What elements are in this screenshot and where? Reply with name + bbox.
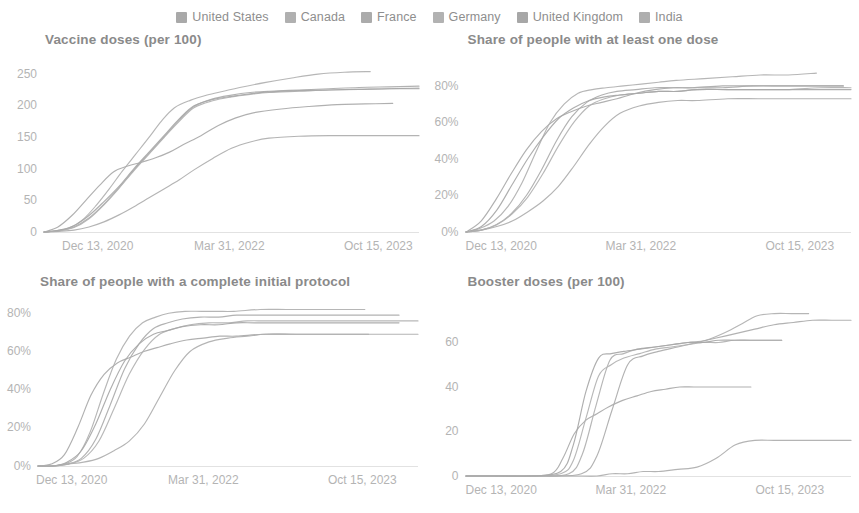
x-axis-line — [38, 466, 418, 467]
legend-item-label: India — [655, 10, 683, 24]
series-line — [466, 86, 843, 232]
series-line — [466, 440, 851, 476]
y-axis-tick-label: 40 — [427, 380, 459, 394]
x-axis-tick-label: Oct 15, 2023 — [756, 483, 825, 497]
chart-title: Share of people with at least one dose — [468, 32, 719, 47]
legend-item[interactable]: Canada — [285, 10, 345, 24]
series-line — [466, 320, 851, 476]
y-axis-tick-label: 60 — [427, 335, 459, 349]
y-axis-tick-label: 60% — [427, 115, 459, 129]
legend-item-label: United Kingdom — [533, 10, 623, 24]
chart-grid: Vaccine doses (per 100) 050100150200250D… — [0, 30, 859, 513]
x-axis-tick-label: Dec 13, 2020 — [466, 483, 537, 497]
series-line — [44, 86, 419, 232]
chart-panel-vaccine-doses: Vaccine doses (per 100) 050100150200250D… — [0, 30, 430, 272]
x-axis-tick-label: Mar 31, 2022 — [194, 239, 265, 253]
legend-swatch-icon — [517, 12, 528, 23]
legend-swatch-icon — [433, 12, 444, 23]
x-axis-line — [44, 232, 419, 233]
series-line — [466, 88, 851, 232]
x-axis-tick-label: Dec 13, 2020 — [62, 239, 133, 253]
chart-panel-at-least-one-dose: Share of people with at least one dose 0… — [430, 30, 859, 272]
legend-item-label: Canada — [301, 10, 345, 24]
plot-area: 050100150200250Dec 13, 2020Mar 31, 2022O… — [44, 64, 419, 232]
y-axis-tick-label: 80% — [427, 79, 459, 93]
x-axis-line — [466, 232, 851, 233]
chart-title: Vaccine doses (per 100) — [45, 32, 202, 47]
series-lines — [38, 298, 418, 466]
legend-item[interactable]: France — [361, 10, 417, 24]
series-line — [38, 315, 399, 466]
chart-legend: United StatesCanadaFranceGermanyUnited K… — [0, 0, 859, 30]
x-axis-tick-label: Oct 15, 2023 — [344, 239, 413, 253]
legend-item[interactable]: Germany — [433, 10, 501, 24]
legend-item-label: United States — [192, 10, 268, 24]
legend-item-label: Germany — [449, 10, 501, 24]
y-axis-tick-label: 80% — [0, 306, 31, 320]
series-line — [466, 86, 843, 232]
series-line — [466, 340, 782, 476]
y-axis-tick-label: 60% — [0, 344, 31, 358]
legend-swatch-icon — [639, 12, 650, 23]
series-lines — [466, 64, 851, 232]
y-axis-tick-label: 20 — [427, 424, 459, 438]
series-line — [44, 88, 419, 232]
plot-area: 0204060Dec 13, 2020Mar 31, 2022Oct 15, 2… — [466, 298, 851, 476]
y-axis-tick-label: 0 — [427, 469, 459, 483]
chart-panel-booster-doses: Booster doses (per 100) 0204060Dec 13, 2… — [430, 272, 859, 513]
series-lines — [466, 298, 851, 476]
y-axis-tick-label: 100 — [0, 162, 37, 176]
series-line — [466, 340, 782, 476]
y-axis-tick-label: 200 — [0, 98, 37, 112]
legend-swatch-icon — [285, 12, 296, 23]
y-axis-tick-label: 250 — [0, 67, 37, 81]
series-line — [38, 320, 418, 465]
legend-swatch-icon — [361, 12, 372, 23]
x-axis-tick-label: Oct 15, 2023 — [328, 473, 397, 487]
y-axis-tick-label: 40% — [0, 382, 31, 396]
x-axis-tick-label: Dec 13, 2020 — [466, 239, 537, 253]
plot-area: 0%20%40%60%80%Dec 13, 2020Mar 31, 2022Oc… — [38, 298, 418, 466]
legend-item[interactable]: India — [639, 10, 683, 24]
y-axis-tick-label: 0% — [427, 225, 459, 239]
legend-swatch-icon — [176, 12, 187, 23]
series-line — [44, 89, 419, 232]
y-axis-tick-label: 50 — [0, 193, 37, 207]
y-axis-tick-label: 150 — [0, 130, 37, 144]
y-axis-tick-label: 0 — [0, 225, 37, 239]
legend-item-label: France — [377, 10, 417, 24]
series-line — [466, 89, 851, 232]
plot-area: 0%20%40%60%80%Dec 13, 2020Mar 31, 2022Oc… — [466, 64, 851, 232]
y-axis-tick-label: 20% — [427, 188, 459, 202]
y-axis-tick-label: 20% — [0, 420, 31, 434]
legend-item[interactable]: United Kingdom — [517, 10, 623, 24]
x-axis-tick-label: Oct 15, 2023 — [766, 239, 835, 253]
series-line — [466, 313, 809, 476]
x-axis-tick-label: Dec 13, 2020 — [36, 473, 107, 487]
legend-item[interactable]: United States — [176, 10, 268, 24]
series-line — [44, 72, 370, 232]
series-line — [38, 334, 369, 466]
y-axis-tick-label: 0% — [0, 459, 31, 473]
x-axis-tick-label: Mar 31, 2022 — [168, 473, 239, 487]
x-axis-tick-label: Mar 31, 2022 — [606, 239, 677, 253]
series-line — [44, 136, 419, 232]
chart-title: Booster doses (per 100) — [468, 274, 625, 289]
y-axis-tick-label: 40% — [427, 152, 459, 166]
x-axis-tick-label: Mar 31, 2022 — [596, 483, 667, 497]
series-lines — [44, 64, 419, 232]
chart-panel-complete-initial-protocol: Share of people with a complete initial … — [0, 272, 430, 513]
chart-title: Share of people with a complete initial … — [40, 274, 350, 289]
